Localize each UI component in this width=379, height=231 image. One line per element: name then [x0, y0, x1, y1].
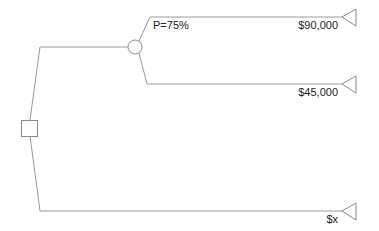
outcome-label-90000: $90,000 — [280, 19, 338, 31]
outcome-label-x: $x — [280, 213, 338, 225]
chance-node-circle — [128, 40, 142, 54]
terminal-triangle-90000 — [342, 9, 356, 26]
terminal-triangle-x — [342, 203, 356, 220]
branch-decision-to-x — [30, 136, 342, 211]
branch-chance-lower — [139, 53, 342, 84]
decision-tree-diagram — [0, 0, 379, 231]
outcome-label-45000: $45,000 — [280, 86, 338, 98]
terminal-triangle-45000 — [342, 76, 356, 93]
decision-node-square — [22, 121, 38, 137]
branch-decision-to-chance — [30, 47, 128, 120]
probability-label: P=75% — [153, 19, 189, 31]
